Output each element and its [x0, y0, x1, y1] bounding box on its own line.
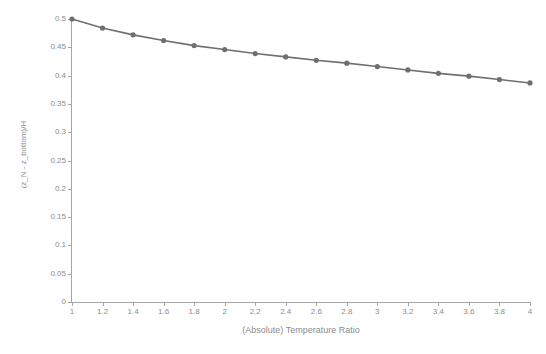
data-point — [69, 16, 74, 21]
data-point — [283, 54, 288, 59]
data-point — [314, 58, 319, 63]
line-chart: 00.050.10.150.20.250.30.350.40.450.5 11.… — [0, 0, 546, 354]
data-point — [405, 67, 410, 72]
series-line — [72, 19, 530, 83]
x-tick-mark — [164, 303, 165, 306]
y-axis-title: (z_N - z_bottom)/H — [19, 85, 28, 225]
x-tick-mark — [225, 303, 226, 306]
data-point — [466, 74, 471, 79]
x-tick-mark — [255, 303, 256, 306]
data-point — [375, 64, 380, 69]
data-point — [527, 80, 532, 85]
x-tick-mark — [103, 303, 104, 306]
x-tick-mark — [377, 303, 378, 306]
x-tick-mark — [499, 303, 500, 306]
x-tick-mark — [194, 303, 195, 306]
data-point — [130, 32, 135, 37]
series-plot — [72, 19, 530, 302]
x-axis-title: (Absolute) Temperature Ratio — [72, 325, 530, 335]
data-point — [100, 25, 105, 30]
x-tick-mark — [469, 303, 470, 306]
data-point — [253, 51, 258, 56]
x-tick-mark — [286, 303, 287, 306]
x-tick-mark — [408, 303, 409, 306]
x-tick-mark — [347, 303, 348, 306]
data-point — [436, 71, 441, 76]
x-tick-mark — [316, 303, 317, 306]
data-point — [344, 61, 349, 66]
data-point — [161, 38, 166, 43]
x-tick-label: 4 — [510, 308, 546, 316]
x-tick-mark — [530, 303, 531, 306]
data-point — [497, 77, 502, 82]
plot-area — [72, 19, 530, 302]
x-tick-mark — [133, 303, 134, 306]
data-point — [192, 43, 197, 48]
x-tick-mark — [72, 303, 73, 306]
data-point — [222, 47, 227, 52]
x-tick-mark — [438, 303, 439, 306]
